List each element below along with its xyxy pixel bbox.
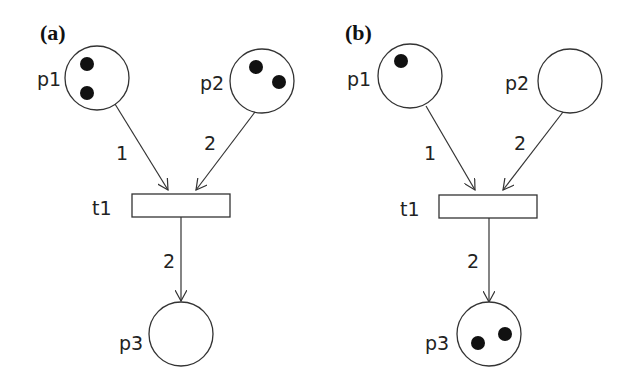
place-circle [538,49,602,113]
arc-weight: 2 [163,250,175,272]
place-label: p1 [347,68,371,90]
place-p3: p3 [119,302,213,366]
transition-t1: t1 [92,194,230,219]
place-label: p2 [505,72,529,94]
panel-b: (b) p1 p2 1 2 t1 2 p3 [345,20,602,366]
place-p1: p1 [37,46,129,110]
token [80,86,94,100]
arc-weight: 2 [467,250,479,272]
arc-p2-t1 [503,112,563,190]
place-label: p2 [200,72,224,94]
arc-weight: 2 [204,132,216,154]
panel-a: (a) p1 p2 1 2 t1 2 p3 [37,20,294,366]
place-p2: p2 [200,49,294,113]
arc-weight: 1 [116,142,128,164]
transition-t1: t1 [400,195,537,220]
transition-rect [132,194,230,217]
token [394,54,408,68]
petri-net-figure: (a) p1 p2 1 2 t1 2 p3 [0,0,632,383]
place-circle [149,302,213,366]
place-circle [378,44,442,108]
token [471,336,485,350]
panel-label: (b) [345,20,372,45]
token [272,75,286,89]
token [498,327,512,341]
panel-label: (a) [40,20,66,45]
place-label: p3 [119,332,143,354]
token [80,57,94,71]
transition-label: t1 [400,198,420,220]
place-circle [65,46,129,110]
transition-label: t1 [92,197,112,219]
arc-weight: 1 [424,142,436,164]
place-label: p1 [37,68,61,90]
token [249,60,263,74]
place-label: p3 [425,332,449,354]
place-p1: p1 [347,44,442,108]
arc-weight: 2 [514,132,526,154]
place-p3: p3 [425,302,521,366]
transition-rect [439,195,537,218]
place-p2: p2 [505,49,602,113]
